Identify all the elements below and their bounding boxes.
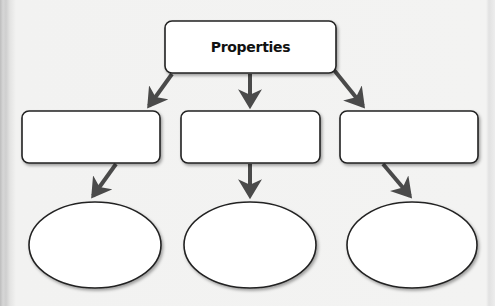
middle-box[interactable] xyxy=(181,111,320,163)
arrow-root-to-right xyxy=(334,70,363,106)
left-oval[interactable] xyxy=(29,202,161,288)
root-label: Properties xyxy=(165,21,336,73)
arrow-root-to-left xyxy=(149,74,172,106)
left-box[interactable] xyxy=(22,111,160,163)
arrows-level1 xyxy=(93,164,410,196)
right-oval[interactable] xyxy=(347,202,477,288)
arrow-right-box-to-right-oval xyxy=(383,164,410,196)
middle-oval[interactable] xyxy=(184,202,316,288)
arrow-left-box-to-left-oval xyxy=(93,164,116,196)
worksheet-page: Properties xyxy=(0,0,495,306)
arrows-root xyxy=(149,70,363,106)
right-box[interactable] xyxy=(340,111,478,163)
